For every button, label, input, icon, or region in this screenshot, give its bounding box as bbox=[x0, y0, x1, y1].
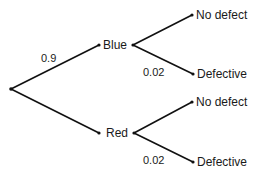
probability-blue-defective: 0.02 bbox=[143, 66, 164, 79]
node-label-red-defective: Defective bbox=[197, 155, 247, 169]
node-label-blue-defective: Defective bbox=[197, 67, 247, 81]
tree-lines bbox=[0, 0, 255, 174]
node-label-blue-no-defect: No defect bbox=[196, 8, 247, 22]
probability-red-defective: 0.02 bbox=[143, 154, 164, 167]
node-label-red: Red bbox=[106, 126, 128, 140]
probability-blue: 0.9 bbox=[41, 52, 56, 65]
node-label-blue: Blue bbox=[103, 38, 127, 52]
node-label-red-no-defect: No defect bbox=[196, 95, 247, 109]
